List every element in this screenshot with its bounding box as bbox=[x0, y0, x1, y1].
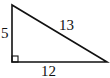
horizontal-leg-label: 12 bbox=[41, 63, 56, 78]
vertical-leg-label: 5 bbox=[1, 25, 9, 41]
right-angle-marker bbox=[12, 56, 18, 62]
right-triangle-diagram: 5 13 12 bbox=[0, 0, 110, 78]
hypotenuse-label: 13 bbox=[59, 17, 74, 33]
triangle-shape bbox=[12, 5, 107, 62]
